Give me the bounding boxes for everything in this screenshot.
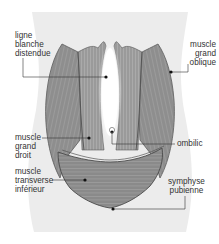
dot-symphyse bbox=[111, 207, 114, 210]
label-ligne-blanche-distendue: ligne blanche distendue bbox=[15, 31, 51, 58]
label-muscle-grand-droit: muscle grand droit bbox=[15, 133, 41, 160]
dot-grand-droit bbox=[87, 136, 90, 139]
dot-grand-oblique bbox=[169, 70, 172, 73]
label-symphyse-pubienne: symphyse pubienne bbox=[168, 177, 205, 195]
dot-ligne-blanche bbox=[104, 75, 107, 78]
dot-ombilic bbox=[110, 130, 113, 133]
label-muscle-grand-oblique: muscle grand oblique bbox=[190, 40, 216, 67]
label-muscle-transverse-inferieur: muscle transverse inférieur bbox=[15, 167, 53, 194]
dot-transverse bbox=[83, 178, 86, 181]
label-ombilic: ombilic bbox=[177, 139, 202, 148]
